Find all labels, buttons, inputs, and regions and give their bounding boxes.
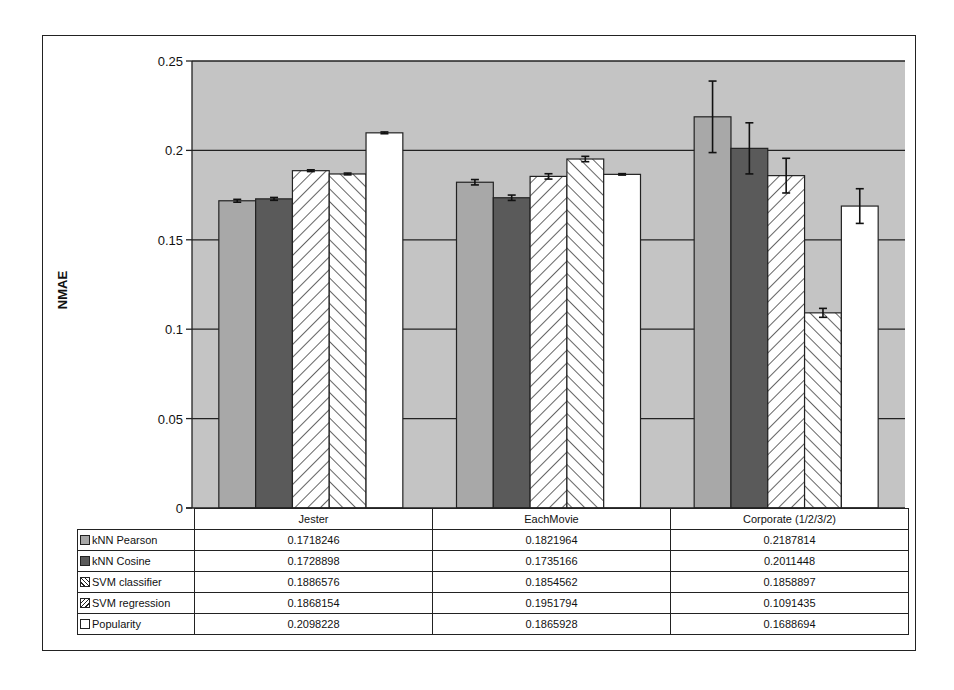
table-cell: 0.1728898 xyxy=(195,551,433,572)
table-cell: 0.1865928 xyxy=(433,614,671,635)
table-cell: 0.1821964 xyxy=(433,530,671,551)
bar xyxy=(768,176,805,508)
table-cell: 0.1735166 xyxy=(433,551,671,572)
legend-label: kNN Cosine xyxy=(92,555,151,567)
y-tick-label: 0.15 xyxy=(158,233,183,248)
category-header: EachMovie xyxy=(433,509,671,530)
bar xyxy=(731,148,768,508)
legend-entry: SVM classifier xyxy=(78,572,195,593)
table-cell: 0.2011448 xyxy=(671,551,909,572)
bar xyxy=(694,117,731,508)
table-header-row: Jester EachMovie Corporate (1/2/3/2) xyxy=(78,509,909,530)
bar xyxy=(493,198,530,508)
bar xyxy=(567,159,604,508)
table-cell: 0.2098228 xyxy=(195,614,433,635)
y-tick-label: 0.05 xyxy=(158,412,183,427)
bar xyxy=(329,174,366,508)
legend-entry: Popularity xyxy=(78,614,195,635)
y-tick-label: 0.25 xyxy=(158,54,183,69)
legend-label: kNN Pearson xyxy=(92,534,157,546)
legend-swatch-icon xyxy=(80,535,90,545)
table-row: SVM classifier0.18865760.18545620.185889… xyxy=(78,572,909,593)
bar xyxy=(292,171,329,508)
table-row: kNN Cosine0.17288980.17351660.2011448 xyxy=(78,551,909,572)
legend-swatch-icon xyxy=(80,556,90,566)
bar xyxy=(530,176,567,508)
legend-entry: kNN Cosine xyxy=(78,551,195,572)
table-corner xyxy=(78,509,195,530)
y-tick-label: 0.1 xyxy=(165,322,183,337)
bar xyxy=(841,206,878,508)
table-row: Popularity0.20982280.18659280.1688694 xyxy=(78,614,909,635)
table-cell: 0.1951794 xyxy=(433,593,671,614)
table-cell: 0.1868154 xyxy=(195,593,433,614)
bar xyxy=(256,199,293,508)
table-cell: 0.1858897 xyxy=(671,572,909,593)
table-cell: 0.1854562 xyxy=(433,572,671,593)
legend-label: SVM regression xyxy=(92,597,170,609)
legend-entry: SVM regression xyxy=(78,593,195,614)
legend-label: Popularity xyxy=(92,618,141,630)
table-cell: 0.2187814 xyxy=(671,530,909,551)
bar xyxy=(457,182,494,508)
table-cell: 0.1091435 xyxy=(671,593,909,614)
y-axis-title: NMAE xyxy=(55,271,70,310)
legend-label: SVM classifier xyxy=(92,576,162,588)
legend-entry: kNN Pearson xyxy=(78,530,195,551)
bar xyxy=(366,133,403,508)
bar xyxy=(219,201,256,508)
category-header: Corporate (1/2/3/2) xyxy=(671,509,909,530)
legend-swatch-icon xyxy=(80,598,90,608)
table-cell: 0.1718246 xyxy=(195,530,433,551)
bar xyxy=(604,174,641,508)
category-header: Jester xyxy=(195,509,433,530)
legend-swatch-icon xyxy=(80,619,90,629)
y-axis: 00.050.10.150.20.25 xyxy=(158,54,192,516)
table-cell: 0.1886576 xyxy=(195,572,433,593)
table-row: kNN Pearson0.17182460.18219640.2187814 xyxy=(78,530,909,551)
y-tick-label: 0.2 xyxy=(165,143,183,158)
legend-swatch-icon xyxy=(80,577,90,587)
table-cell: 0.1688694 xyxy=(671,614,909,635)
data-table: Jester EachMovie Corporate (1/2/3/2) kNN… xyxy=(77,508,909,635)
table-row: SVM regression0.18681540.19517940.109143… xyxy=(78,593,909,614)
bar xyxy=(805,313,842,508)
